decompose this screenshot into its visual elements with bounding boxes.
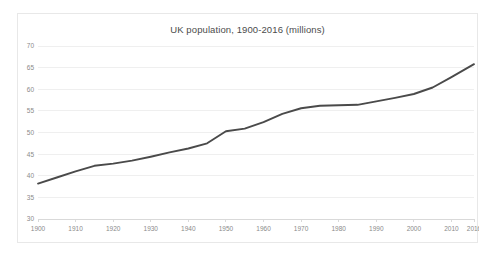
x-tick-label-1920: 1920 — [106, 225, 121, 232]
x-tick-label-1950: 1950 — [219, 225, 234, 232]
x-tick-label-2010: 2010 — [444, 225, 459, 232]
gridlines-group — [38, 46, 474, 219]
y-tick-label-65: 65 — [27, 64, 35, 71]
y-tick-label-40: 40 — [27, 172, 35, 179]
line-chart-plot: 303540455055606570 190019101920193019401… — [18, 14, 479, 244]
y-tick-label-70: 70 — [27, 42, 35, 49]
x-axis-labels-group: 1900191019201930194019501960197019801990… — [31, 225, 479, 232]
y-tick-label-55: 55 — [27, 107, 35, 114]
y-tick-label-45: 45 — [27, 151, 35, 158]
axis-lines-group — [38, 219, 474, 222]
x-tick-label-2016: 2016 — [467, 225, 479, 232]
y-tick-label-50: 50 — [27, 129, 35, 136]
chart-container: UK population, 1900-2016 (millions) 3035… — [17, 13, 478, 243]
y-tick-label-60: 60 — [27, 86, 35, 93]
x-tick-label-1980: 1980 — [331, 225, 346, 232]
y-tick-label-30: 30 — [27, 215, 35, 222]
y-tick-label-35: 35 — [27, 194, 35, 201]
y-axis-labels-group: 303540455055606570 — [27, 42, 35, 222]
x-tick-label-2000: 2000 — [407, 225, 422, 232]
x-tick-label-1940: 1940 — [181, 225, 196, 232]
x-tick-label-1990: 1990 — [369, 225, 384, 232]
x-tick-label-1930: 1930 — [144, 225, 159, 232]
x-tick-label-1960: 1960 — [256, 225, 271, 232]
x-tick-label-1970: 1970 — [294, 225, 309, 232]
x-tick-label-1900: 1900 — [31, 225, 46, 232]
x-tick-label-1910: 1910 — [68, 225, 83, 232]
series-group — [38, 64, 474, 183]
population-line-series — [38, 64, 474, 183]
